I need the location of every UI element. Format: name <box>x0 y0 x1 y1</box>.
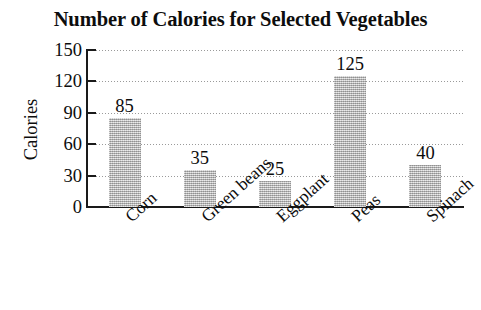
bar-value-label: 40 <box>389 144 461 163</box>
y-tick-label: 0 <box>42 198 82 217</box>
bar-value-label: 85 <box>89 97 161 116</box>
plot-area <box>87 50 463 207</box>
y-axis-title-text: Calories <box>22 98 43 160</box>
y-tick-label: 150 <box>42 41 82 60</box>
y-tick-label: 30 <box>42 167 82 186</box>
y-tick-label: 120 <box>42 72 82 91</box>
bar-chart: Number of Calories for Selected Vegetabl… <box>0 0 481 310</box>
y-tick-label: 60 <box>42 135 82 154</box>
chart-title: Number of Calories for Selected Vegetabl… <box>0 8 481 31</box>
y-tick-label: 90 <box>42 104 82 123</box>
bar[interactable] <box>109 118 141 207</box>
bar[interactable] <box>334 76 366 207</box>
bar-value-label: 35 <box>164 149 236 168</box>
bar-value-label: 125 <box>314 55 386 74</box>
